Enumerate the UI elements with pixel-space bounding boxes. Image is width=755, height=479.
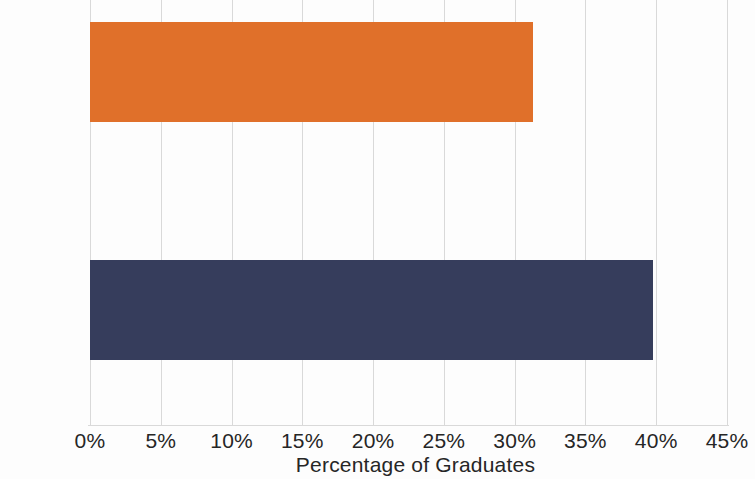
- x-axis-title-text: Percentage of Graduates: [296, 453, 535, 476]
- x-axis-title: Percentage of Graduates: [0, 453, 755, 477]
- xtick-label-0: 0%: [75, 429, 106, 453]
- bar-chart: Female Male 0% 5% 10% 15% 20% 25% 30% 35…: [0, 0, 755, 479]
- xtick-label-3: 15%: [281, 429, 324, 453]
- xtick-label-8: 40%: [635, 429, 678, 453]
- bar-male: [90, 260, 653, 360]
- gridline-45pct: [727, 0, 728, 425]
- xtick-label-9: 45%: [706, 429, 749, 453]
- x-axis-line: [88, 425, 729, 426]
- gridline-40pct: [656, 0, 657, 425]
- xtick-label-4: 20%: [352, 429, 395, 453]
- xtick-label-7: 35%: [564, 429, 607, 453]
- xtick-label-5: 25%: [423, 429, 466, 453]
- bar-female: [90, 22, 533, 122]
- xtick-label-6: 30%: [493, 429, 536, 453]
- gridline-35pct: [585, 0, 586, 425]
- xtick-label-2: 10%: [210, 429, 253, 453]
- xtick-label-1: 5%: [145, 429, 176, 453]
- plot-area: [90, 0, 727, 425]
